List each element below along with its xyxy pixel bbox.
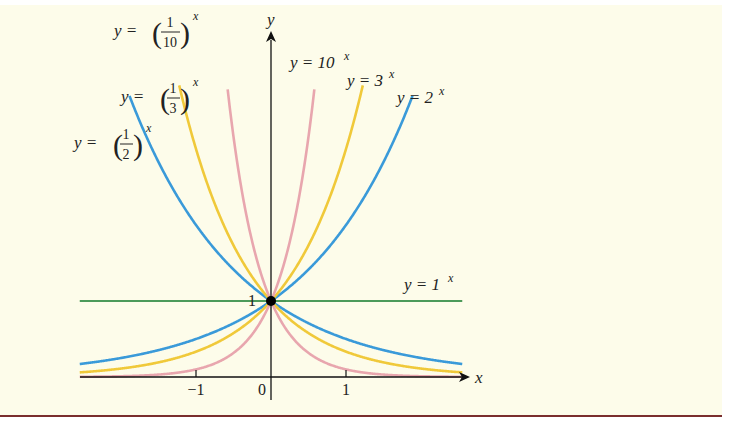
svg-text:1: 1 <box>123 127 130 142</box>
svg-text:y = 10: y = 10 <box>288 53 335 72</box>
svg-text:x: x <box>145 121 152 135</box>
svg-text:(: ( <box>160 82 170 116</box>
svg-text:3: 3 <box>170 101 177 116</box>
svg-text:1: 1 <box>167 15 174 30</box>
svg-text:2: 2 <box>123 147 130 162</box>
label-one-half: y = ( 1 2 ) x <box>72 121 152 162</box>
y-axis-label: y <box>265 10 275 29</box>
svg-text:y = 2: y = 2 <box>395 88 434 107</box>
svg-text:y =: y = <box>72 133 97 152</box>
curve-y-1-10-x <box>228 89 463 376</box>
svg-text:y = 1: y = 1 <box>402 275 440 294</box>
svg-text:x: x <box>192 9 199 23</box>
svg-text:x: x <box>192 75 199 89</box>
svg-text:): ) <box>180 16 190 50</box>
x-axis-label: x <box>474 368 483 387</box>
svg-text:1: 1 <box>170 81 177 96</box>
label-ten: y = 10 x <box>288 49 350 72</box>
label-one: y = 1 x <box>402 271 454 294</box>
svg-text:10: 10 <box>163 35 177 50</box>
svg-text:y = 3: y = 3 <box>345 71 383 90</box>
label-one-tenth: y = ( 1 10 ) x <box>112 9 199 50</box>
svg-text:y =: y = <box>112 21 137 40</box>
svg-text:(: ( <box>113 128 123 162</box>
svg-text:x: x <box>388 67 395 81</box>
svg-text:x: x <box>447 271 454 285</box>
exponential-chart: −1 0 1 1 x y y = ( 1 10 ) x y = ( 1 3 ) … <box>0 0 735 428</box>
svg-text:x: x <box>343 49 350 63</box>
svg-text:(: ( <box>152 16 162 50</box>
tick-label-1: 1 <box>342 381 350 398</box>
tick-label-neg1: −1 <box>187 381 204 398</box>
intersection-point <box>266 296 276 306</box>
label-one-third: y = ( 1 3 ) x <box>119 75 199 116</box>
tick-label-y1: 1 <box>248 292 256 309</box>
svg-text:): ) <box>133 128 143 162</box>
svg-text:): ) <box>180 82 190 116</box>
label-three: y = 3 x <box>345 67 395 90</box>
svg-text:y =: y = <box>119 87 144 106</box>
label-two: y = 2 x <box>395 84 445 107</box>
tick-label-0: 0 <box>258 381 266 398</box>
svg-text:x: x <box>438 84 445 98</box>
